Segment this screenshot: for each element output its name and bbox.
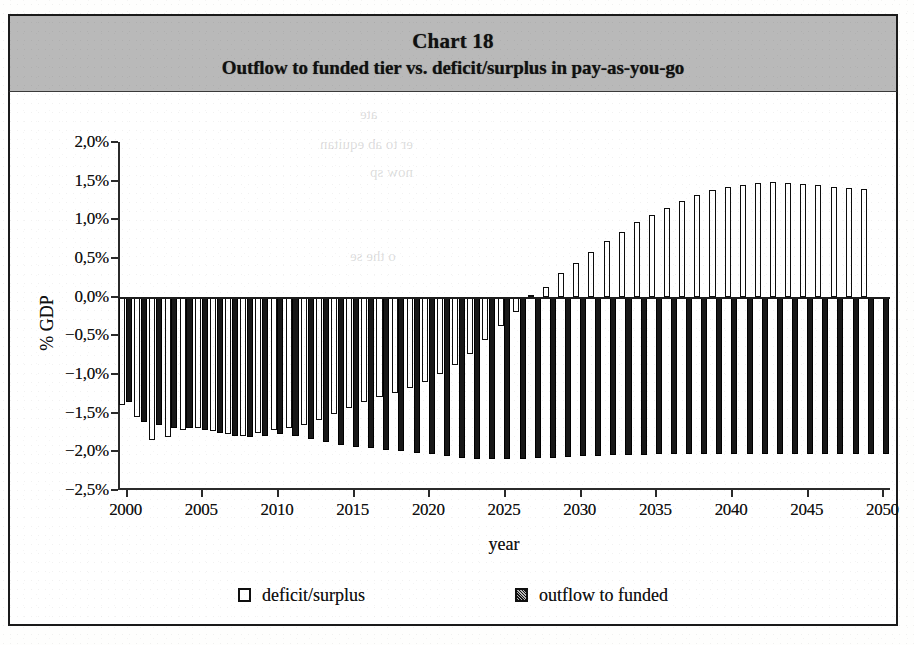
bar-deficit-surplus-2011: [286, 297, 292, 428]
bar-deficit-surplus-2028: [543, 287, 549, 296]
bar-outflow-to-funded-2035: [656, 297, 662, 455]
bar-deficit-surplus-2004: [180, 297, 186, 430]
bar-deficit-surplus-2017: [376, 297, 382, 398]
filled-square-icon: [515, 588, 528, 602]
bar-deficit-surplus-2021: [437, 297, 443, 374]
y-axis-label: % GDP: [37, 295, 58, 351]
bar-deficit-surplus-2020: [422, 297, 428, 382]
y-tick-mark: [111, 334, 118, 336]
bar-deficit-surplus-2047: [831, 187, 837, 297]
bar-outflow-to-funded-2019: [414, 297, 420, 453]
bars-container: [118, 142, 890, 490]
bar-outflow-to-funded-2012: [308, 297, 314, 439]
bar-outflow-to-funded-2049: [868, 297, 874, 455]
bar-outflow-to-funded-2044: [792, 297, 798, 455]
y-tick-label: −2,5%: [65, 480, 109, 500]
bar-outflow-to-funded-2001: [141, 297, 147, 422]
bar-deficit-surplus-2007: [225, 297, 231, 435]
bar-deficit-surplus-2026: [513, 297, 519, 312]
x-tick-label: 2050: [866, 500, 899, 520]
bar-deficit-surplus-2035: [649, 215, 655, 297]
bar-outflow-to-funded-2026: [520, 297, 526, 459]
bar-deficit-surplus-2034: [634, 222, 640, 296]
bar-deficit-surplus-2032: [604, 241, 610, 297]
bar-deficit-surplus-2024: [482, 297, 488, 340]
hollow-square-icon: [238, 588, 251, 602]
bar-outflow-to-funded-2030: [580, 297, 586, 456]
bar-deficit-surplus-2009: [255, 297, 261, 433]
bar-deficit-surplus-2015: [346, 297, 352, 408]
y-tick-label: 0,0%: [74, 287, 109, 307]
y-tick-label: −1,0%: [65, 364, 109, 384]
bar-outflow-to-funded-2006: [217, 297, 223, 433]
y-tick-label: −1,5%: [65, 403, 109, 423]
bar-outflow-to-funded-2028: [550, 297, 556, 458]
y-tick-label: −2,0%: [65, 441, 109, 461]
y-tick-mark: [111, 218, 118, 220]
x-tick-label: 2005: [185, 500, 218, 520]
x-tick-label: 2025: [488, 500, 521, 520]
bar-outflow-to-funded-2005: [202, 297, 208, 430]
bar-deficit-surplus-2013: [316, 297, 322, 421]
x-tick-mark: [201, 490, 203, 497]
bar-deficit-surplus-2008: [240, 297, 246, 436]
bar-deficit-surplus-2016: [361, 297, 367, 402]
bar-deficit-surplus-2038: [694, 195, 700, 297]
x-tick-label: 2040: [715, 500, 748, 520]
x-tick-mark: [353, 490, 355, 497]
bar-outflow-to-funded-2027: [535, 297, 541, 458]
y-tick-mark: [111, 373, 118, 375]
bar-deficit-surplus-2029: [558, 273, 564, 296]
bar-deficit-surplus-2039: [709, 190, 715, 297]
bar-outflow-to-funded-2041: [747, 297, 753, 455]
y-tick-mark: [111, 412, 118, 414]
y-tick-label: −0,5%: [65, 325, 109, 345]
bar-outflow-to-funded-2031: [595, 297, 601, 456]
y-tick-label: 1,0%: [74, 209, 109, 229]
bar-deficit-surplus-2048: [846, 188, 852, 297]
x-axis-label: year: [118, 534, 890, 555]
bar-outflow-to-funded-2039: [716, 297, 722, 455]
y-tick-mark: [111, 296, 118, 298]
legend-item-deficit-surplus[interactable]: deficit/surplus: [238, 585, 365, 606]
bar-outflow-to-funded-2007: [232, 297, 238, 436]
bar-outflow-to-funded-2000: [126, 297, 132, 402]
bar-deficit-surplus-2005: [195, 297, 201, 428]
bar-outflow-to-funded-2011: [292, 297, 298, 436]
bar-outflow-to-funded-2022: [459, 297, 465, 458]
bar-outflow-to-funded-2042: [762, 297, 768, 455]
x-tick-mark: [428, 490, 430, 497]
bar-outflow-to-funded-2047: [837, 297, 843, 455]
x-tick-mark: [504, 490, 506, 497]
x-tick-label: 2035: [639, 500, 672, 520]
x-tick-mark: [807, 490, 809, 497]
plot-area: 2,0%1,5%1,0%0,5%0,0%−0,5%−1,0%−1,5%−2,0%…: [118, 142, 890, 490]
legend-label: outflow to funded: [539, 585, 668, 606]
bar-outflow-to-funded-2032: [610, 297, 616, 456]
x-tick-label: 2015: [336, 500, 369, 520]
legend-item-outflow-to-funded[interactable]: outflow to funded: [515, 585, 668, 606]
bar-deficit-surplus-2018: [392, 297, 398, 393]
bar-outflow-to-funded-2034: [641, 297, 647, 456]
bar-outflow-to-funded-2023: [474, 297, 480, 459]
bar-deficit-surplus-2006: [210, 297, 216, 432]
bar-outflow-to-funded-2048: [853, 297, 859, 455]
bar-outflow-to-funded-2009: [262, 297, 268, 436]
chart-figure: ate er to ab equitan now sp o the se Cha…: [0, 0, 914, 645]
bar-outflow-to-funded-2037: [686, 297, 692, 455]
chart-number-label: Chart 18: [412, 29, 494, 54]
bar-deficit-surplus-2037: [679, 201, 685, 297]
bar-deficit-surplus-2031: [588, 252, 594, 297]
y-tick-label: 2,0%: [74, 132, 109, 152]
bar-deficit-surplus-2046: [815, 185, 821, 296]
bar-deficit-surplus-2003: [165, 297, 171, 438]
zero-baseline: [118, 297, 890, 299]
bar-outflow-to-funded-2008: [247, 297, 253, 438]
x-tick-mark: [277, 490, 279, 497]
bar-deficit-surplus-2019: [407, 297, 413, 388]
bar-deficit-surplus-2042: [755, 183, 761, 297]
bar-outflow-to-funded-2045: [807, 297, 813, 455]
bar-outflow-to-funded-2013: [323, 297, 329, 442]
y-tick-mark: [111, 141, 118, 143]
x-tick-label: 2030: [563, 500, 596, 520]
